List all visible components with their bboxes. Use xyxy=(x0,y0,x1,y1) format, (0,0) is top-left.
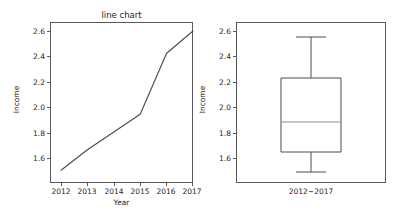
line-ytick-mark xyxy=(47,133,50,134)
box-ytick-mark xyxy=(233,82,236,83)
box-plot-series xyxy=(271,31,351,181)
line-xtick-mark xyxy=(166,183,167,186)
box-xtick-label: 2012~2017 xyxy=(271,187,351,196)
line-ytick-mark xyxy=(47,107,50,108)
line-chart-panel: line chart 2.6 2.4 2.2 2.0 1.8 1.6 2012 … xyxy=(0,0,204,212)
box-plot-ylabel: Income xyxy=(198,70,207,130)
box-rect-path xyxy=(281,78,341,152)
line-ytick-mark xyxy=(47,82,50,83)
box-ytick-mark xyxy=(233,56,236,57)
line-ytick-label: 2.6 xyxy=(20,27,45,36)
line-xtick-mark xyxy=(140,183,141,186)
box-ytick-mark xyxy=(233,158,236,159)
line-ytick-mark xyxy=(47,31,50,32)
line-ytick-label: 1.6 xyxy=(20,154,45,163)
line-ytick-label: 2.4 xyxy=(20,52,45,61)
box-ytick-label: 2.2 xyxy=(206,78,231,87)
line-xtick-mark xyxy=(114,183,115,186)
box-ytick-label: 2.0 xyxy=(206,103,231,112)
box-ytick-mark xyxy=(233,133,236,134)
line-ytick-mark xyxy=(47,56,50,57)
box-ytick-mark xyxy=(233,107,236,108)
box-ytick-label: 1.6 xyxy=(206,154,231,163)
line-ytick-mark xyxy=(47,158,50,159)
line-xtick-mark xyxy=(192,183,193,186)
box-ytick-label: 2.6 xyxy=(206,27,231,36)
line-chart-ylabel: Income xyxy=(12,70,21,130)
line-ytick-label: 2.0 xyxy=(20,103,45,112)
matplotlib-figure: line chart 2.6 2.4 2.2 2.0 1.8 1.6 2012 … xyxy=(0,0,408,212)
line-ytick-label: 1.8 xyxy=(20,129,45,138)
line-ytick-label: 2.2 xyxy=(20,78,45,87)
box-ytick-label: 2.4 xyxy=(206,52,231,61)
line-series-path xyxy=(61,31,193,170)
line-xtick-mark xyxy=(87,183,88,186)
box-ytick-mark xyxy=(233,31,236,32)
box-plot-panel: 2.6 2.4 2.2 2.0 1.8 1.6 2012~2017 Income xyxy=(204,0,408,212)
box-ytick-label: 1.8 xyxy=(206,129,231,138)
line-series xyxy=(61,31,193,171)
line-chart-xlabel: Year xyxy=(50,198,193,207)
line-chart-title: line chart xyxy=(50,10,193,20)
line-xtick-mark xyxy=(61,183,62,186)
